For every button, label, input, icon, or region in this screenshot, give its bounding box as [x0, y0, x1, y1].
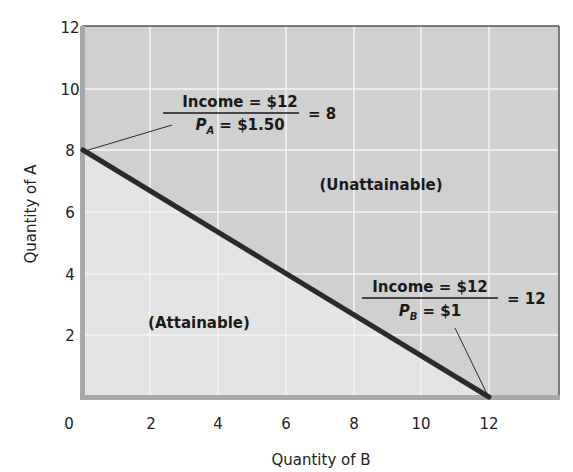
- x-tick-4: 4: [213, 415, 223, 433]
- attainable-label: (Attainable): [148, 314, 250, 332]
- annotation-a-numerator: Income = $12: [182, 93, 298, 111]
- y-tick-6: 6: [65, 204, 75, 222]
- annotation-b-denominator: PB = $1: [399, 302, 462, 322]
- y-tick-12: 12: [60, 19, 79, 37]
- x-tick-6: 6: [281, 415, 291, 433]
- y-tick-4: 4: [65, 266, 75, 284]
- x-tick-10: 10: [411, 415, 430, 433]
- y-axis-ticks: 12 10 8 6 4 2: [60, 19, 79, 345]
- x-tick-8: 8: [349, 415, 359, 433]
- unattainable-label: (Unattainable): [319, 176, 442, 194]
- x-tick-2: 2: [146, 415, 156, 433]
- annotation-b-result: = 12: [507, 290, 546, 308]
- x-axis-ticks: 0 2 4 6 8 10 12: [64, 415, 498, 433]
- x-tick-12: 12: [479, 415, 498, 433]
- budget-line-chart: Income = $12 PA = $1.50 = 8 Income = $12…: [0, 0, 573, 472]
- annotation-b-numerator: Income = $12: [372, 278, 488, 296]
- y-tick-2: 2: [65, 327, 75, 345]
- y-axis-label: Quantity of A: [22, 164, 40, 264]
- annotation-a-result: = 8: [308, 105, 336, 123]
- x-axis-label: Quantity of B: [271, 451, 370, 469]
- y-tick-8: 8: [65, 142, 75, 160]
- x-tick-0: 0: [64, 415, 74, 433]
- y-tick-10: 10: [60, 81, 79, 99]
